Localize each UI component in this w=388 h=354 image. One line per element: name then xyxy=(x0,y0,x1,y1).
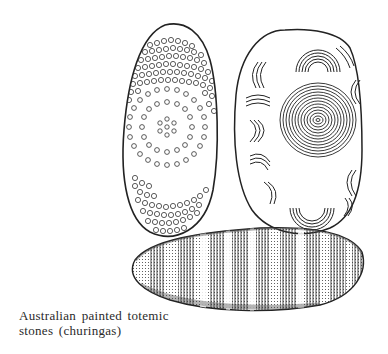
churinga-spiral-arcs xyxy=(235,30,362,234)
caption-line-2: stones (churingas) xyxy=(19,323,169,338)
figure-caption: Australian painted totemic stones (churi… xyxy=(19,308,169,338)
caption-line-1: Australian painted totemic xyxy=(19,308,169,323)
figure: Australian painted totemic stones (churi… xyxy=(0,0,388,354)
churinga-concentric-dots xyxy=(123,24,217,236)
